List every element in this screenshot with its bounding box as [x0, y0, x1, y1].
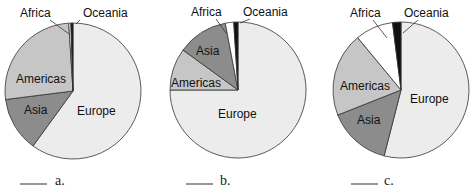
slice-label-africa: Africa	[20, 6, 51, 20]
slice-label-oceania: Oceania	[83, 6, 128, 20]
slice-label-africa: Africa	[350, 6, 381, 20]
pie-chart-b	[170, 22, 306, 158]
slice-label-asia: Asia	[24, 103, 48, 117]
pie-slice-americas	[5, 23, 73, 99]
pie-chart-a	[5, 23, 141, 159]
caption-b: b.	[220, 173, 231, 188]
slice-label-oceania: Oceania	[243, 5, 288, 19]
caption-c: c.	[384, 173, 394, 188]
slice-label-europe: Europe	[77, 104, 116, 118]
slice-label-americas: Americas	[171, 76, 221, 90]
slice-label-americas: Americas	[16, 72, 66, 86]
caption-a: a.	[55, 173, 65, 188]
slice-label-europe: Europe	[410, 92, 449, 106]
slice-label-asia: Asia	[357, 113, 381, 127]
slice-label-europe: Europe	[218, 107, 257, 121]
slice-label-asia: Asia	[196, 44, 220, 58]
slice-label-oceania: Oceania	[404, 6, 449, 20]
slice-label-africa: Africa	[191, 5, 222, 19]
slice-label-americas: Americas	[340, 79, 390, 93]
pie-charts-figure: AfricaOceaniaAmericasAsiaEuropeAfricaOce…	[0, 0, 476, 192]
